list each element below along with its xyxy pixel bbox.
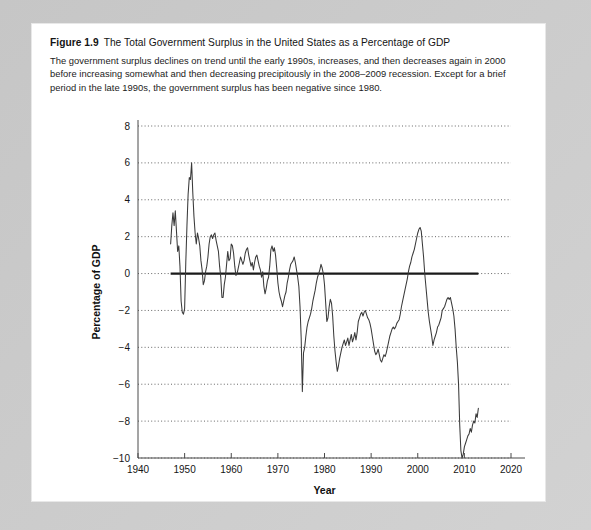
x-axis-title: Year	[313, 484, 335, 496]
y-tick-label: 2	[124, 231, 130, 242]
y-tick-label: 0	[124, 268, 130, 279]
chart-container: 86420−2−4−6−8−10194019501960197019801990…	[32, 106, 545, 501]
x-tick-label: 1940	[127, 464, 150, 475]
figure-caption: Figure 1.9The Total Government Surplus i…	[32, 24, 545, 100]
x-tick-label: 2010	[453, 464, 476, 475]
x-tick-label: 2020	[500, 464, 523, 475]
tick-labels-group: 86420−2−4−6−8−10194019501960197019801990…	[113, 121, 523, 475]
figure-description: The government surplus declines on trend…	[50, 54, 520, 94]
y-tick-label: 8	[124, 121, 130, 132]
x-tick-label: 1950	[174, 464, 197, 475]
y-tick-label: −6	[119, 379, 131, 390]
x-tick-label: 1960	[220, 464, 243, 475]
y-tick-label: −4	[119, 342, 131, 353]
figure-title: Figure 1.9The Total Government Surplus i…	[50, 36, 529, 50]
figure-title-text: The Total Government Surplus in the Unit…	[104, 37, 451, 48]
y-tick-label: 6	[124, 157, 130, 168]
figure-panel: Figure 1.9The Total Government Surplus i…	[32, 24, 545, 501]
y-tick-label: −8	[119, 416, 131, 427]
x-tick-label: 1970	[267, 464, 290, 475]
x-tick-label: 1990	[360, 464, 383, 475]
x-tick-label: 2000	[407, 464, 430, 475]
figure-number: Figure 1.9	[50, 37, 99, 48]
surplus-line-chart: 86420−2−4−6−8−10194019501960197019801990…	[32, 106, 545, 501]
page-root: Figure 1.9The Total Government Surplus i…	[0, 0, 591, 530]
y-tick-label: −2	[119, 305, 131, 316]
y-tick-label: 4	[124, 194, 130, 205]
y-tick-label: −10	[113, 453, 130, 464]
y-axis-title: Percentage of GDP	[90, 244, 102, 339]
x-tick-label: 1980	[313, 464, 336, 475]
axes-group	[138, 120, 525, 458]
